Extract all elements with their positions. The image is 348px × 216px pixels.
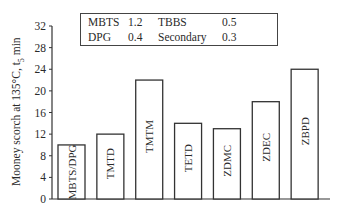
- y-tick-label: 28: [35, 42, 47, 54]
- legend-row-2: DPG 0.4 Secondary 0.3: [88, 30, 277, 45]
- legend-value: 0.3: [222, 30, 252, 45]
- y-tick-label: 20: [35, 85, 47, 97]
- bar-label: TETD: [182, 144, 194, 172]
- y-axis-label: Mooney scorch at 135°C, t5 min: [10, 32, 25, 192]
- y-tick-label: 8: [40, 150, 46, 162]
- bars: MBTS/DPGTMTDTMTMTETDZDMCZDECZBPD: [58, 69, 318, 199]
- legend-box: MBTS 1.2 TBBS 0.5 DPG 0.4 Secondary 0.3: [80, 13, 278, 46]
- y-tick-label: 24: [35, 63, 47, 75]
- bar-label: TMTD: [104, 148, 116, 179]
- bar-label: ZDEC: [260, 133, 272, 162]
- legend-name: TBBS: [158, 15, 222, 30]
- y-tick-label: 4: [40, 171, 46, 183]
- legend-value: 0.4: [128, 30, 158, 45]
- y-tick-label: 0: [40, 193, 46, 205]
- bar-label: TMTM: [143, 120, 155, 153]
- legend-value: 1.2: [128, 15, 158, 30]
- y-tick-label: 16: [35, 107, 47, 119]
- y-tick-label: 32: [35, 20, 47, 32]
- y-tick-label: 12: [35, 128, 47, 140]
- legend-name: DPG: [88, 30, 128, 45]
- legend-name: Secondary: [158, 30, 222, 45]
- bar-label: ZDMC: [221, 145, 233, 177]
- bar-label: MBTS/DPG: [66, 144, 78, 199]
- bar-label: ZBPD: [299, 117, 311, 145]
- legend-row-1: MBTS 1.2 TBBS 0.5: [88, 15, 277, 30]
- legend-name: MBTS: [88, 15, 128, 30]
- legend-value: 0.5: [222, 15, 252, 30]
